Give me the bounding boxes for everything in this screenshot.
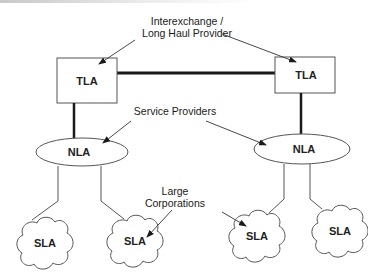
nla-sla-link-3	[269, 164, 284, 213]
tla-left-node: TLA	[57, 58, 117, 103]
large-corporations-annotation: Large Corporations	[145, 185, 246, 237]
interexchange-label-line2: Long Haul Provider	[142, 27, 232, 39]
tla-right-label: TLA	[295, 69, 316, 81]
nla-right-node: NLA	[254, 134, 350, 164]
arrow-icon	[206, 121, 266, 145]
nla-left-node: NLA	[36, 138, 128, 166]
sla-3-label: SLA	[246, 230, 268, 242]
service-providers-label: Service Providers	[134, 105, 216, 117]
nla-right-label: NLA	[293, 143, 316, 155]
sla-node-3: SLA	[229, 210, 285, 262]
large-corporations-label-line2: Corporations	[145, 197, 205, 209]
sla-2-label: SLA	[124, 235, 146, 247]
tla-left-label: TLA	[76, 75, 97, 87]
sla-node-1: SLA	[17, 217, 73, 269]
sla-4-label: SLA	[329, 225, 351, 237]
interexchange-annotation: Interexchange / Long Haul Provider	[99, 15, 296, 64]
nla-sla-link-1	[32, 166, 58, 220]
large-corporations-label-line1: Large	[162, 185, 189, 197]
sla-node-2: SLA	[107, 215, 163, 267]
service-providers-annotation: Service Providers	[103, 105, 266, 145]
tla-right-node: TLA	[275, 57, 335, 93]
nla-sla-link-4	[310, 164, 322, 209]
nla-left-label: NLA	[68, 146, 91, 158]
arrow-icon	[103, 121, 131, 143]
interexchange-label-line1: Interexchange /	[151, 15, 223, 27]
address-hierarchy-diagram: TLA TLA NLA NLA SLA SLA SLA SLA Interexc…	[0, 0, 368, 279]
sla-node-4: SLA	[312, 205, 368, 257]
nla-sla-link-2	[101, 166, 124, 219]
sla-1-label: SLA	[34, 237, 56, 249]
arrow-icon	[222, 34, 296, 62]
